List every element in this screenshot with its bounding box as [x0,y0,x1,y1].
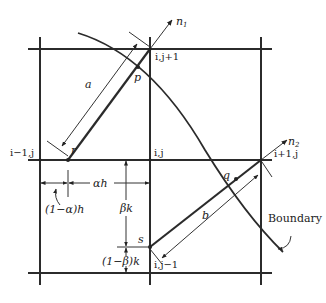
normal-n2 [150,140,287,264]
label-length-a: a [85,78,92,91]
dimension-tick-a-top [129,32,150,47]
label-node-i-j-minus-1: i,j−1 [154,259,178,270]
label-alpha-h: αh [93,177,108,190]
label-beta-k: βk [119,202,133,215]
label-point-p: p [134,71,141,84]
point-p [136,65,140,69]
label-one-minus-alpha-h: (1−α)h [45,203,84,216]
label-node-i-minus-1-j: i−1,j [10,147,34,158]
label-point-s: s [138,233,144,246]
label-node-i-j: i,j [154,147,163,158]
node-i-plus-1-j [259,158,262,161]
dimension-line-b [162,175,258,258]
label-node-i-j-plus-1: i,j+1 [155,51,179,62]
node-i-j-plus-1 [148,47,151,50]
point-r [66,158,70,162]
label-length-b: b [202,209,209,222]
dimension-tick-b-top [262,162,272,177]
dimension-tick-a-bottom [47,141,68,156]
label-boundary: Boundary [268,212,323,225]
boundary-pointer [278,236,291,249]
point-q [234,177,238,181]
label-point-q: q [223,169,230,182]
finite-difference-boundary-diagram: n1 n2 i,j+1 i−1,j i,j i+1,j i,j−1 p q r … [0,0,326,303]
normal-arrow-n1 [150,20,172,49]
normal-n1 [47,20,172,160]
label-node-i-plus-1-j: i+1,j [274,148,298,159]
dimension-line-a [62,44,137,146]
normal-line-n2 [150,160,261,247]
label-n2: n2 [288,135,300,149]
label-n1: n1 [176,15,188,29]
boundary-curve [78,33,283,252]
node-i-minus-1-j [39,159,42,162]
node-i-j [149,159,152,162]
label-one-minus-beta-k: (1−β)k [102,255,140,268]
label-point-r: r [71,144,77,157]
